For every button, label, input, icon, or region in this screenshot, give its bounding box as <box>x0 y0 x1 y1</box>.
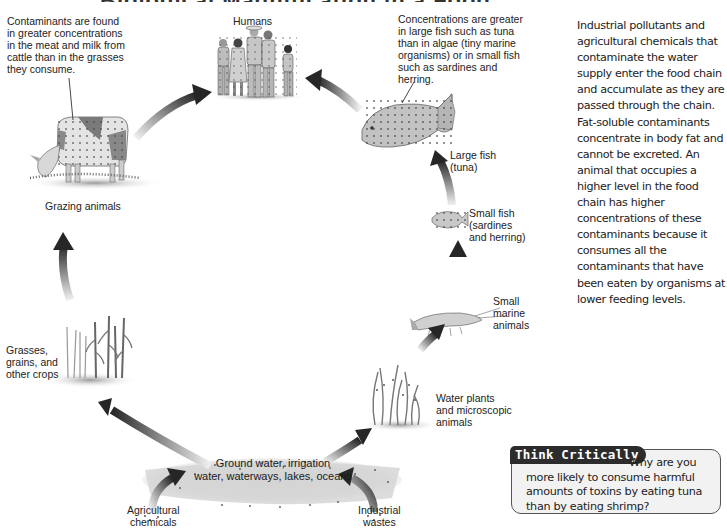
label-small-fish: Small fish (sardines and herring) <box>469 207 526 243</box>
think-critically-question: Why are you more likely to consume harmf… <box>526 456 702 513</box>
think-critically-box: Think Critically Why are you more likely… <box>511 449 721 514</box>
cattle-callout: Contaminants are found in greater concen… <box>7 15 125 75</box>
label-industrial-wastes: Industrial wastes <box>358 504 401 528</box>
water-plants-illustration <box>360 365 440 431</box>
fish-callout: Concentrations are greater in large fish… <box>398 13 523 85</box>
label-humans: Humans <box>233 15 272 27</box>
label-water: Ground water, irrigation water, waterway… <box>158 457 388 483</box>
explanation-paragraph: Industrial pollutants and agricultural c… <box>577 18 727 308</box>
shrimp-illustration <box>410 308 505 337</box>
think-critically-question-wrap: Why are you more likely to consume harmf… <box>526 456 721 514</box>
humans-illustration <box>208 26 308 101</box>
label-grasses: Grasses, grains, and other crops <box>6 344 59 380</box>
explanation-text: Industrial pollutants and agricultural c… <box>577 18 727 308</box>
label-grazing-animals: Grazing animals <box>45 200 121 212</box>
label-water-plants: Water plants and microscopic animals <box>436 392 512 428</box>
label-small-marine-animals: Small marine animals <box>493 295 529 331</box>
label-large-fish: Large fish (tuna) <box>450 149 496 173</box>
label-agricultural-chemicals: Agricultural chemicals <box>127 504 180 528</box>
small-fish-illustration <box>432 210 468 228</box>
tuna-illustration <box>362 82 455 148</box>
